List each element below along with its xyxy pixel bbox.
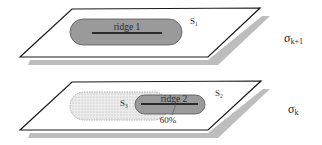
ridge-1-label: ridge 1 — [114, 22, 141, 32]
lower-plane-group: ridge 2 60% S3 S2 σk — [20, 81, 298, 138]
ridge-2-label: ridge 2 — [161, 94, 188, 104]
scale-space-diagram: ridge 1 S1 σk+1 ridge 2 60% S3 S2 σk — [0, 0, 322, 145]
upper-plane-group: ridge 1 S1 σk+1 — [20, 8, 303, 65]
overlap-percent-label: 60% — [160, 115, 177, 125]
scale-sigma-k-plus-1-label: σk+1 — [284, 31, 303, 46]
scale-sigma-k-label: σk — [288, 102, 298, 117]
